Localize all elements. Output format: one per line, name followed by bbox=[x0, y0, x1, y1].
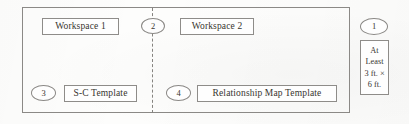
workspace-1-label-box: Workspace 1 bbox=[42, 18, 119, 35]
minimum-dimension-note-box: At Least 3 ft. × 6 ft. bbox=[360, 40, 389, 95]
callout-number-1: 1 bbox=[372, 22, 376, 31]
dimension-line-3: 3 ft. × bbox=[364, 68, 384, 80]
callout-number-3: 3 bbox=[41, 89, 45, 98]
callout-number-4: 4 bbox=[176, 89, 180, 98]
callout-marker-4: 4 bbox=[166, 85, 191, 101]
workspace-1-label: Workspace 1 bbox=[55, 22, 106, 32]
sc-template-label-box: S-C Template bbox=[64, 85, 137, 102]
workspace-2-label: Workspace 2 bbox=[192, 22, 243, 32]
relationship-map-template-label: Relationship Map Template bbox=[213, 89, 322, 99]
workspace-2-label-box: Workspace 2 bbox=[180, 18, 254, 35]
dimension-line-1: At bbox=[370, 45, 378, 57]
dimension-line-4: 6 ft. bbox=[368, 79, 381, 91]
callout-marker-1: 1 bbox=[360, 18, 388, 35]
diagram-canvas: Workspace 1 Workspace 2 S-C Template Rel… bbox=[0, 0, 409, 124]
relationship-map-template-label-box: Relationship Map Template bbox=[197, 85, 337, 102]
callout-marker-3: 3 bbox=[31, 85, 56, 101]
sc-template-label: S-C Template bbox=[74, 89, 128, 99]
callout-number-2: 2 bbox=[151, 22, 155, 31]
dimension-line-2: Least bbox=[366, 56, 384, 68]
callout-marker-2: 2 bbox=[141, 18, 165, 34]
